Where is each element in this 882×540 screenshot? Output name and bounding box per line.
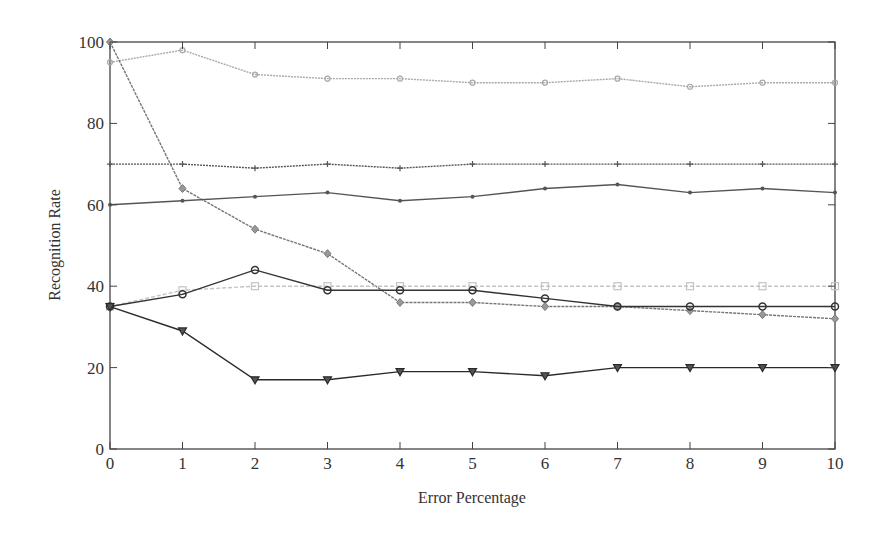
- data-point-marker: [832, 161, 838, 167]
- x-tick-label: 0: [106, 454, 115, 473]
- data-point-marker: [761, 187, 765, 191]
- data-point-marker: [179, 185, 186, 193]
- data-point-marker: [252, 165, 258, 171]
- data-point-marker: [397, 298, 404, 306]
- plot-frame: [110, 42, 835, 449]
- x-tick-label: 7: [613, 454, 622, 473]
- x-tick-label: 1: [178, 454, 187, 473]
- x-tick-label: 9: [758, 454, 767, 473]
- series-layer: [106, 38, 839, 384]
- data-point-marker: [324, 250, 331, 258]
- x-tick-label: 10: [827, 454, 844, 473]
- plot-border: [110, 42, 835, 449]
- data-point-marker: [181, 199, 185, 203]
- series-line: [110, 184, 835, 204]
- data-point-marker: [688, 191, 692, 195]
- data-point-marker: [832, 315, 839, 323]
- data-point-marker: [542, 303, 549, 311]
- series-line: [110, 42, 835, 319]
- data-point-marker: [180, 161, 186, 167]
- y-tick-label: 20: [87, 359, 104, 378]
- y-tick-label: 0: [96, 440, 105, 459]
- data-point-marker: [542, 161, 548, 167]
- x-tick-label: 4: [396, 454, 405, 473]
- line-chart: 012345678910020406080100 Error Percentag…: [0, 0, 882, 540]
- data-point-marker: [397, 165, 403, 171]
- data-point-marker: [759, 311, 766, 319]
- data-point-marker: [543, 187, 547, 191]
- data-point-marker: [760, 161, 766, 167]
- data-point-marker: [252, 225, 259, 233]
- x-axis-title: Error Percentage: [418, 489, 526, 507]
- data-point-marker: [687, 161, 693, 167]
- data-point-marker: [471, 195, 475, 199]
- series-dot-60: [108, 182, 837, 206]
- data-point-marker: [326, 191, 330, 195]
- series-light-circle-top: [108, 48, 838, 90]
- data-point-marker: [616, 182, 620, 186]
- series-triangle-down: [106, 304, 839, 384]
- data-point-marker: [179, 328, 187, 335]
- data-point-marker: [398, 199, 402, 203]
- data-point-marker: [107, 161, 113, 167]
- data-point-marker: [325, 161, 331, 167]
- x-tick-label: 3: [323, 454, 332, 473]
- axes-layer: 012345678910020406080100: [79, 33, 844, 473]
- data-point-marker: [469, 298, 476, 306]
- data-point-marker: [470, 161, 476, 167]
- x-tick-label: 6: [541, 454, 550, 473]
- y-tick-label: 100: [79, 33, 105, 52]
- series-line: [110, 50, 835, 87]
- y-tick-label: 40: [87, 277, 104, 296]
- x-tick-label: 8: [686, 454, 695, 473]
- data-point-marker: [833, 191, 837, 195]
- data-point-marker: [253, 195, 257, 199]
- x-tick-label: 5: [468, 454, 477, 473]
- y-tick-label: 80: [87, 114, 104, 133]
- series-plus-70: [107, 161, 838, 171]
- y-tick-label: 60: [87, 196, 104, 215]
- y-axis-title: Recognition Rate: [46, 189, 64, 301]
- data-point-marker: [615, 161, 621, 167]
- x-tick-label: 2: [251, 454, 260, 473]
